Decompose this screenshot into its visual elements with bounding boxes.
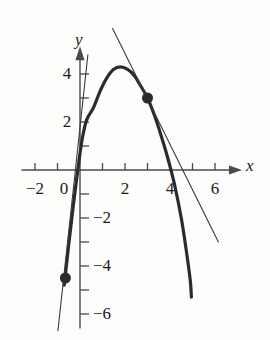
tick-label: 0 (60, 180, 69, 197)
axis-group (22, 46, 243, 328)
tick-label: −2 (26, 180, 44, 197)
tick-label: 4 (63, 65, 72, 82)
tick-label: −2 (93, 209, 111, 226)
tangent-line-upper (113, 28, 219, 242)
tangency-point-upper-marker (142, 93, 153, 104)
tick-label: −6 (93, 305, 111, 322)
tick-label: 2 (63, 113, 72, 130)
tick-label: 2 (121, 180, 130, 197)
x-axis-label: x (246, 157, 254, 174)
x-axis-arrowhead (229, 165, 242, 174)
tick-label: 6 (211, 180, 220, 197)
graph-figure: −2024642−2−4−6 x y (0, 0, 270, 340)
tick-label: 4 (166, 180, 175, 197)
tangency-point-lower-marker (60, 273, 71, 284)
tick-label: −4 (93, 257, 111, 274)
y-axis-label: y (75, 31, 83, 48)
coordinate-plot (0, 0, 270, 340)
x-axis-ticks (35, 163, 215, 170)
